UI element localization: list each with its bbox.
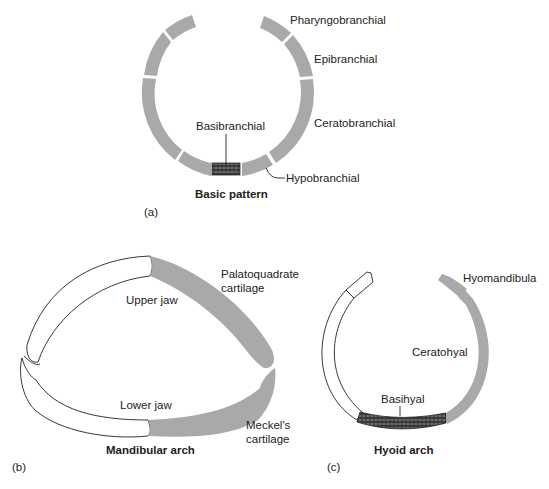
label-meckels-1: Meckel's [246, 419, 291, 431]
gill-arch-diagram: Pharyngobranchial Epibranchial Ceratobra… [0, 0, 549, 489]
label-hyomandibula: Hyomandibula [463, 272, 537, 284]
hypobranchial-leader [266, 168, 285, 178]
hyoid-open-segment [322, 290, 362, 420]
label-epibranchial: Epibranchial [314, 53, 377, 65]
panel-c-label: (c) [327, 461, 341, 473]
label-meckels-2: cartilage [246, 433, 289, 445]
panel-b-label: (b) [12, 461, 26, 473]
basihyal [357, 412, 446, 429]
pharyngobranchial-left [165, 15, 196, 40]
label-pharyngobranchial: Pharyngobranchial [290, 14, 386, 26]
ceratobranchial-right [269, 79, 314, 163]
label-lower-jaw: Lower jaw [120, 399, 172, 411]
label-basihyal: Basihyal [381, 393, 424, 405]
label-hypobranchial: Hypobranchial [286, 172, 360, 184]
label-ceratohyal: Ceratohyal [412, 346, 468, 358]
panel-a-basic-pattern: Pharyngobranchial Epibranchial Ceratobra… [142, 14, 395, 218]
upper-jaw-bone [27, 256, 152, 362]
label-upper-jaw: Upper jaw [126, 294, 178, 306]
epibranchial-left [144, 32, 171, 76]
hypobranchial-left [178, 151, 211, 176]
label-palatoquadrate-2: cartilage [221, 282, 264, 294]
panel-c-hyoid-arch: Hyomandibula Ceratohyal Basihyal Hyoid a… [322, 272, 537, 473]
pharyngobranchial-right [260, 16, 291, 42]
panel-a-label: (a) [144, 206, 158, 218]
panel-b-mandibular-arch: Palatoquadrate cartilage Upper jaw Lower… [12, 256, 299, 473]
label-basibranchial: Basibranchial [196, 120, 265, 132]
ceratobranchial-left [142, 78, 182, 160]
panel-a-title: Basic pattern [195, 188, 268, 200]
panel-c-title: Hyoid arch [374, 444, 433, 456]
label-palatoquadrate-1: Palatoquadrate [221, 268, 299, 280]
label-ceratobranchial: Ceratobranchial [314, 117, 395, 129]
panel-b-title: Mandibular arch [106, 444, 195, 456]
epibranchial-right [284, 35, 313, 77]
lower-jaw-bone [21, 358, 151, 437]
